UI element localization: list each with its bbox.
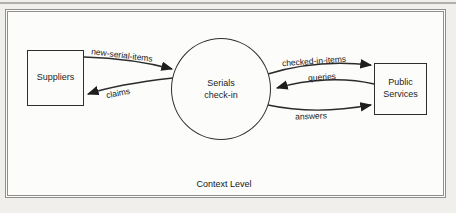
diagram-caption: Context Level — [196, 179, 251, 189]
serials-check-in-process: Serials check-in — [171, 38, 271, 140]
flow-label-queries: queries — [308, 71, 337, 83]
arrow-claims — [88, 78, 173, 94]
suppliers-box: Suppliers — [27, 50, 84, 106]
public-services-label: Public Services — [383, 77, 418, 100]
public-services-box: Public Services — [374, 63, 427, 115]
diagram-canvas: Suppliers Serials check-in Public Servic… — [0, 0, 456, 213]
suppliers-label: Suppliers — [37, 72, 75, 84]
arrow-answers — [268, 105, 371, 110]
flow-label-answers: answers — [295, 110, 327, 121]
serials-check-in-label: Serials check-in — [204, 77, 238, 101]
